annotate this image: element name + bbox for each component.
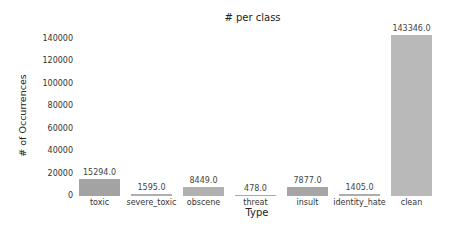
x-tick-label: clean <box>377 198 447 207</box>
y-tick-label: 120000 <box>13 56 73 65</box>
bar-identity-hate <box>339 194 380 196</box>
bar-value-label: 478.0 <box>221 184 291 193</box>
bar-insult <box>287 187 328 196</box>
bar-toxic <box>79 179 120 196</box>
bar-clean <box>391 35 432 196</box>
y-tick-label: 100000 <box>13 79 73 88</box>
y-tick-label: 40000 <box>13 146 73 155</box>
bar-severe-toxic <box>131 194 172 196</box>
bar-obscene <box>183 187 224 196</box>
bar-value-label: 1405.0 <box>325 183 395 192</box>
bar-value-label: 1595.0 <box>117 183 187 192</box>
bar-threat <box>235 195 276 196</box>
y-tick-label: 60000 <box>13 124 73 133</box>
bar-value-label: 143346.0 <box>377 24 447 33</box>
y-axis-label: # of Occurrences <box>17 56 28 176</box>
plot-area: 15294.0toxic1595.0severe_toxic8449.0obsc… <box>75 0 440 231</box>
bar-value-label: 15294.0 <box>65 168 135 177</box>
y-tick-label: 140000 <box>13 34 73 43</box>
y-tick-label: 80000 <box>13 101 73 110</box>
